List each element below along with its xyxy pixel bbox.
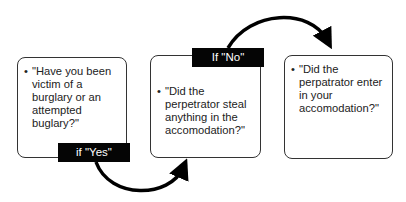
bullet: • bbox=[157, 85, 165, 137]
arrow-no bbox=[228, 18, 327, 48]
step-text-1: "Have you been victim of a burglary or a… bbox=[32, 65, 121, 130]
step-text-3: "Did the perpatrator enter in your accom… bbox=[299, 63, 387, 115]
label-if-no: If "No" bbox=[192, 48, 264, 67]
arrow-yes bbox=[96, 162, 183, 191]
step-box-2: • "Did the perpetrator steal anything in… bbox=[150, 55, 261, 158]
bullet: • bbox=[24, 65, 32, 130]
step-text-2: "Did the perpetrator steal anything in t… bbox=[165, 85, 255, 137]
step-box-3: • "Did the perpatrator enter in your acc… bbox=[284, 55, 393, 159]
bullet: • bbox=[291, 63, 299, 115]
label-if-yes: if "Yes" bbox=[58, 143, 130, 162]
